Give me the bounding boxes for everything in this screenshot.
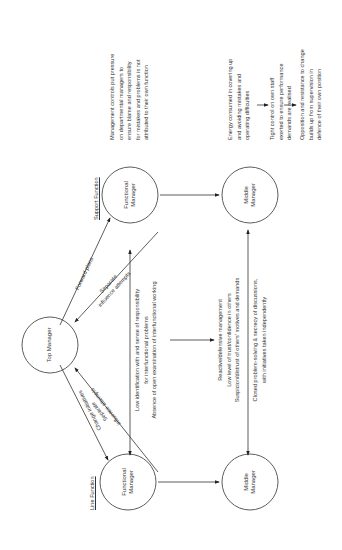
right-note: Management controls put pressure on depa…	[108, 54, 151, 140]
support-functional-manager-label: Functional Manager	[123, 165, 137, 225]
top-manager-label: Top Manager	[46, 315, 53, 375]
line-functional-manager-label: Functional Manager	[121, 452, 135, 512]
center-upper-block: Low identification with and sense of res…	[133, 255, 159, 445]
support-middle-manager-label: Middle Manager	[243, 165, 257, 225]
right-chain-step-2: Tight control on own staff exerted to en…	[268, 64, 294, 141]
right-chain-step-1: Energy consumed in covering up and avoid…	[226, 59, 252, 140]
center-lower-block-bottom: Closed problem-solving & secrecy of disc…	[251, 240, 268, 440]
line-function-label: Line Function	[88, 476, 96, 510]
center-lower-block-top: Reactive/defensive management Low level …	[216, 240, 242, 440]
support-function-label: Support Function	[92, 177, 100, 220]
right-chain-step-3: Opposition and resistance to change buil…	[298, 49, 324, 140]
line-middle-manager-label: Middle Manager	[243, 452, 257, 512]
diagram-canvas: Line Function Support Function Top Manag…	[0, 0, 342, 550]
